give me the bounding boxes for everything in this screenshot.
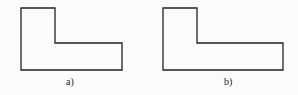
label-a: a) <box>66 76 74 87</box>
label-b: b) <box>224 76 232 87</box>
l-shape-b <box>163 8 283 70</box>
l-shape-a <box>21 8 122 70</box>
diagram-canvas <box>0 0 298 95</box>
